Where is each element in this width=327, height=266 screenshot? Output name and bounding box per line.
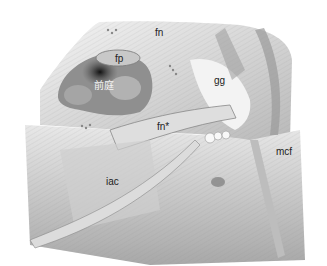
label-fn-star: fn* (157, 122, 169, 132)
label-fp: fp (115, 54, 123, 64)
label-vestibule: 前庭 (94, 81, 114, 91)
label-fn: fn (155, 28, 163, 38)
label-mcf: mcf (276, 147, 292, 157)
illustration-drawing (0, 0, 327, 266)
label-iac: iac (106, 177, 119, 187)
label-gg: gg (214, 76, 225, 86)
anatomical-illustration: fn fp 前庭 gg fn* iac mcf (0, 0, 327, 266)
